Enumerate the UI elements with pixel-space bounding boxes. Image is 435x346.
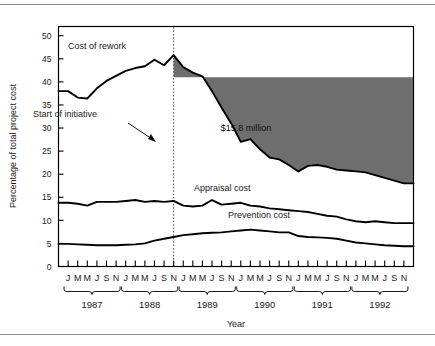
x-month-label: J [210,273,215,283]
x-month-label: S [391,273,397,283]
x-month-label: S [219,273,225,283]
x-month-label: N [228,273,235,283]
y-tick-label: 10 [42,216,52,226]
y-axis-tick-labels: 05101520253035404550 [42,31,52,272]
x-year-label: 1989 [197,299,218,310]
x-month-label: J [181,273,186,283]
x-month-label: N [401,273,408,283]
y-tick-label: 50 [42,31,52,41]
x-month-label: M [199,273,207,283]
series-line-prevention-cost [59,230,414,247]
x-month-label: J [95,273,100,283]
savings-shaded-region [174,55,414,183]
x-year-label: 1988 [139,299,160,310]
figure-page: 05101520253035404550 JMMJSNJMMJSNJMMJSNJ… [0,0,435,346]
y-tick-label: 30 [42,123,52,133]
x-month-label: M [84,273,92,283]
y-axis-ticks [59,36,64,267]
annotation-cost-of-rework: Cost of rework [68,41,127,51]
x-month-label: N [343,273,350,283]
y-tick-label: 0 [47,262,52,272]
annotation-savings: $15.8 million [221,123,272,133]
start-of-initiative-arrow [128,123,156,142]
y-axis-title: Percentage of total project cost [8,83,18,208]
x-month-label: N [286,273,293,283]
y-tick-label: 25 [42,146,52,156]
x-month-label: J [382,273,387,283]
x-month-label: S [276,273,282,283]
y-tick-label: 5 [47,239,52,249]
x-axis-year-brackets [64,287,408,295]
x-month-label: M [314,273,322,283]
x-month-label: J [267,273,272,283]
y-tick-label: 20 [42,169,52,179]
x-month-label: N [170,273,177,283]
y-tick-label: 40 [42,77,52,87]
x-month-label: M [141,273,149,283]
annotation-start-of-initiative: Start of initiative [33,109,97,119]
x-axis-ticks [68,261,404,267]
x-month-label: J [66,273,71,283]
x-year-label: 1990 [254,299,275,310]
annotation-appraisal-cost: Appraisal cost [194,183,251,193]
x-month-label: M [362,273,370,283]
x-month-label: N [113,273,120,283]
x-axis-title: Year [227,319,245,329]
x-month-label: M [189,273,197,283]
x-month-label: M [304,273,312,283]
x-month-label: J [296,273,301,283]
x-month-label: M [74,273,82,283]
x-month-label: J [239,273,244,283]
x-month-label: M [247,273,255,283]
y-tick-label: 45 [42,54,52,64]
cost-of-quality-chart: 05101520253035404550 JMMJSNJMMJSNJMMJSNJ… [0,0,435,346]
x-month-label: M [132,273,140,283]
annotation-prevention-cost: Prevention cost [228,210,291,220]
x-month-label: J [152,273,157,283]
x-month-label: J [354,273,359,283]
x-month-label: S [334,273,340,283]
y-tick-label: 15 [42,192,52,202]
x-month-label: M [371,273,379,283]
x-year-label: 1987 [82,299,103,310]
x-month-label: S [161,273,167,283]
x-year-label: 1991 [312,299,333,310]
x-axis-year-labels: 198719881989199019911992 [82,299,391,310]
x-year-label: 1992 [369,299,390,310]
x-month-label: S [103,273,109,283]
x-month-label: M [256,273,264,283]
x-month-label: J [325,273,330,283]
x-axis-month-labels: JMMJSNJMMJSNJMMJSNJMMJSNJMMJSNJMMJSN [66,273,407,283]
x-month-label: J [123,273,128,283]
